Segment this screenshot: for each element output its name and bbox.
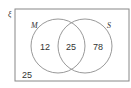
venn-diagram: ξ M S 12 25 78 25 [0, 0, 131, 88]
intersection-value: 25 [66, 42, 76, 52]
universal-set-label: ξ [8, 10, 12, 19]
set-s-label: S [107, 21, 111, 30]
set-m-label: M [30, 21, 39, 30]
s-only-value: 78 [93, 42, 103, 52]
outside-value: 25 [22, 70, 32, 80]
m-only-value: 12 [40, 42, 50, 52]
